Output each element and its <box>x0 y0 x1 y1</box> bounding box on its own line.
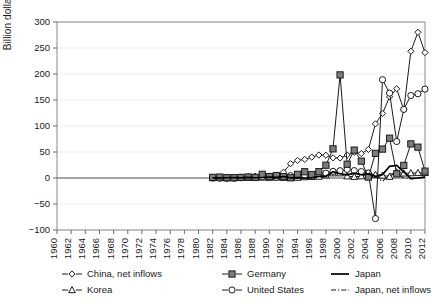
series-china-net-inflows <box>210 29 429 181</box>
data-point-marker <box>302 169 308 175</box>
chart-figure: Billion dollars −100−5005010015020025030… <box>0 0 434 308</box>
x-tick-label: 1964 <box>76 238 87 259</box>
data-point-marker <box>372 150 378 156</box>
x-tick-label: 1982 <box>204 238 215 259</box>
y-tick-label: −50 <box>34 198 50 209</box>
data-point-marker <box>387 135 393 141</box>
x-tick-label: 1962 <box>62 238 73 259</box>
data-point-marker <box>69 271 75 277</box>
data-point-marker <box>259 171 265 177</box>
data-point-marker <box>415 144 421 150</box>
data-point-marker <box>415 91 421 97</box>
y-tick-label: 50 <box>39 146 50 157</box>
x-tick-label: 2008 <box>388 238 399 259</box>
data-point-marker <box>408 48 414 54</box>
data-point-marker <box>422 49 428 55</box>
grid-lines <box>57 22 425 230</box>
data-point-marker <box>379 146 385 152</box>
data-point-marker <box>379 77 385 83</box>
data-point-marker <box>358 158 364 164</box>
data-point-marker <box>323 152 329 158</box>
x-tick-label: 1974 <box>147 238 158 259</box>
x-tick-label: 1994 <box>289 238 300 259</box>
legend-label: United States <box>247 284 304 295</box>
legend-item-japan-net-inflows[interactable]: Japan, net inflows <box>331 284 431 295</box>
data-point-marker <box>401 106 407 112</box>
x-tick-label: 1984 <box>218 238 229 259</box>
x-tick-label: 1968 <box>105 238 116 259</box>
x-axis-ticks: 1960196219641966196819701972197419761978… <box>48 230 427 259</box>
x-tick-label: 1996 <box>303 238 314 259</box>
data-point-marker <box>408 92 414 98</box>
y-tick-label: 100 <box>34 120 50 131</box>
data-point-marker <box>323 162 329 168</box>
y-axis-ticks: −100−50050100150200250300 <box>29 16 57 235</box>
y-axis-title: Billion dollars <box>2 0 13 80</box>
data-point-marker <box>415 29 421 35</box>
legend-label: Japan <box>355 268 381 279</box>
series-path <box>213 80 425 219</box>
legend-item-korea[interactable]: Korea <box>62 284 113 295</box>
data-point-marker <box>401 162 407 168</box>
chart-legend: China, net inflowsGermanyJapanKoreaUnite… <box>62 268 431 295</box>
x-tick-label: 1990 <box>260 238 271 259</box>
data-point-marker <box>69 287 76 293</box>
data-point-marker <box>295 157 301 163</box>
legend-item-china-net-inflows[interactable]: China, net inflows <box>62 268 162 279</box>
data-point-marker <box>387 90 393 96</box>
x-tick-label: 2002 <box>345 238 356 259</box>
x-tick-label: 2010 <box>402 238 413 259</box>
x-tick-label: 1966 <box>90 238 101 259</box>
x-tick-label: 1960 <box>48 238 59 259</box>
data-point-marker <box>337 72 343 78</box>
legend-label: Japan, net inflows <box>355 284 431 295</box>
legend-label: China, net inflows <box>87 268 162 279</box>
x-tick-label: 1976 <box>161 238 172 259</box>
x-tick-label: 1970 <box>119 238 130 259</box>
data-point-marker <box>422 86 428 92</box>
data-point-marker <box>394 138 400 144</box>
x-tick-label: 1980 <box>190 238 201 259</box>
data-point-marker <box>422 168 428 174</box>
legend-label: Korea <box>87 284 113 295</box>
data-point-marker <box>316 152 322 158</box>
data-point-marker <box>330 146 336 152</box>
data-point-marker <box>295 171 301 177</box>
y-tick-label: 150 <box>34 94 50 105</box>
data-point-marker <box>358 150 364 156</box>
x-tick-label: 2006 <box>374 238 385 259</box>
legend-label: Germany <box>247 268 286 279</box>
data-point-marker <box>337 155 343 161</box>
data-point-marker <box>394 171 400 177</box>
x-tick-label: 1978 <box>175 238 186 259</box>
data-point-marker <box>302 156 308 162</box>
x-tick-label: 1986 <box>232 238 243 259</box>
data-point-marker <box>309 154 315 160</box>
data-point-marker <box>372 215 378 221</box>
y-tick-label: 300 <box>34 16 50 27</box>
x-tick-label: 1992 <box>274 238 285 259</box>
data-series <box>209 29 428 221</box>
x-tick-label: 2012 <box>416 238 427 259</box>
data-point-marker <box>344 161 350 167</box>
series-united-states <box>210 77 429 222</box>
y-tick-label: 200 <box>34 68 50 79</box>
chart-canvas: −100−50050100150200250300 19601962196419… <box>0 0 434 308</box>
y-tick-label: −100 <box>29 224 50 235</box>
data-point-marker <box>408 141 414 147</box>
data-point-marker <box>344 152 350 158</box>
data-point-marker <box>316 169 322 175</box>
x-tick-label: 1988 <box>246 238 257 259</box>
y-tick-label: 250 <box>34 42 50 53</box>
data-point-marker <box>330 155 336 161</box>
y-tick-label: 0 <box>45 172 50 183</box>
x-tick-label: 2000 <box>331 238 342 259</box>
x-tick-label: 1972 <box>133 238 144 259</box>
legend-item-germany[interactable]: Germany <box>222 268 286 279</box>
legend-item-japan[interactable]: Japan <box>331 268 381 279</box>
data-point-marker <box>229 271 235 277</box>
data-point-marker <box>351 147 357 153</box>
x-tick-label: 1998 <box>317 238 328 259</box>
data-point-marker <box>229 287 235 293</box>
legend-item-united-states[interactable]: United States <box>222 284 304 295</box>
